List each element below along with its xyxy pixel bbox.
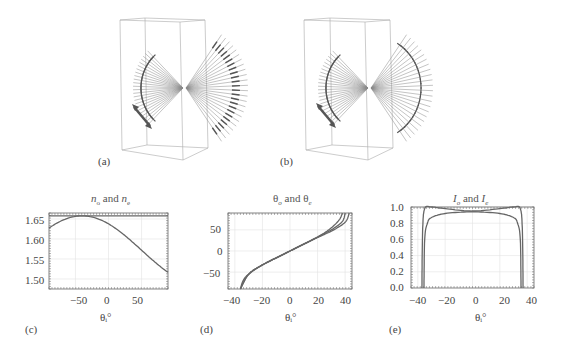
panel-label-c: (c)	[25, 323, 37, 335]
xlabel-c: θᵢ°	[100, 311, 111, 323]
xtick: 40	[340, 294, 351, 306]
xtick: 20	[313, 294, 324, 306]
panel-label-b: (b)	[280, 155, 293, 167]
panel-label-d: (d)	[200, 323, 213, 335]
polarization-arrow-icon	[132, 104, 152, 129]
xtick: 0	[287, 294, 293, 306]
panel-a: (a)	[0, 0, 280, 175]
chart-d: θo and θe 50 0 −50 −40 −20 0 20 40 θᵢ° (…	[190, 180, 380, 344]
xtick: 0	[104, 294, 110, 306]
xtick: 20	[499, 294, 510, 306]
xtick: 50	[132, 294, 143, 306]
polarization-arrow-icon	[316, 103, 336, 128]
panel-b: (b)	[280, 0, 563, 175]
chart-e: Io and Ie 1.0 0.8 0.6 0.4 0.2 0.0 −40 −2…	[375, 180, 563, 344]
ytick: 1.60	[25, 234, 44, 246]
ytick: 1.55	[25, 254, 44, 266]
ytick: 0	[217, 245, 223, 257]
ray-diagram-b	[280, 0, 563, 175]
ytick: 0.0	[390, 281, 404, 293]
chart-c: no and ne 1.65 1.60 1.55 1.50 −50 0 50 θ…	[0, 180, 190, 344]
xtick: −20	[438, 294, 455, 306]
ray-diagram-a	[0, 0, 280, 175]
xlabel-e: θᵢ°	[475, 311, 486, 323]
ytick: 1.65	[25, 214, 44, 226]
xtick: 40	[526, 294, 537, 306]
ytick: 0.2	[390, 265, 404, 277]
xtick: 0	[473, 294, 479, 306]
xtick: −40	[409, 294, 426, 306]
ytick: 1.0	[390, 201, 404, 213]
xtick: −50	[70, 294, 87, 306]
xtick: −20	[253, 294, 270, 306]
ytick: 50	[210, 223, 221, 235]
ray-fan-b	[318, 35, 433, 142]
panel-label-a: (a)	[98, 155, 110, 167]
xlabel-d: θᵢ°	[285, 311, 296, 323]
panel-label-e: (e)	[389, 323, 401, 335]
ytick: 0.4	[390, 249, 404, 261]
ytick: −50	[203, 267, 220, 279]
ytick: 0.8	[390, 217, 404, 229]
ytick: 1.50	[25, 274, 44, 286]
ytick: 0.6	[390, 233, 404, 245]
xtick: −40	[223, 294, 240, 306]
